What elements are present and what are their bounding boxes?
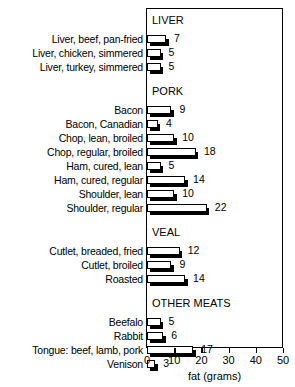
chart-row: Shoulder, lean10 (0, 188, 295, 202)
x-axis-tick (147, 348, 148, 353)
chart-row: Ham, cured, lean5 (0, 160, 295, 174)
category-label: Bacon (114, 104, 143, 117)
bar-value-label: 14 (193, 272, 205, 285)
category-label: Ham, cured, lean (66, 160, 143, 173)
section-heading: VEAL (152, 226, 180, 239)
bar (147, 35, 170, 46)
x-axis-tick-label: 50 (270, 354, 295, 367)
x-axis: fat (grams) 01020304050 (146, 348, 283, 387)
section-heading: OTHER MEATS (152, 297, 231, 310)
chart-row: Cutlet, breaded, fried12 (0, 245, 295, 259)
bar (147, 49, 165, 60)
chart-row: Rabbit6 (0, 330, 295, 344)
category-label: Bacon, Canadian (65, 118, 143, 131)
bar (147, 275, 189, 286)
bar-face (147, 148, 196, 156)
bar-face (147, 134, 174, 142)
chart-row: Liver, chicken, simmered5 (0, 47, 295, 61)
bar-value-label: 10 (182, 131, 194, 144)
bar-face (147, 106, 171, 114)
bar-face (147, 35, 166, 43)
x-axis-tick-label: 40 (243, 354, 269, 367)
bar (147, 134, 178, 145)
bar-face (147, 275, 185, 283)
bar-face (147, 190, 174, 198)
bar (147, 176, 189, 187)
bar-face (147, 261, 171, 269)
bar-value-label: 22 (215, 201, 227, 214)
bar (147, 120, 162, 131)
bar-value-label: 9 (179, 103, 185, 116)
bar-value-label: 5 (169, 46, 175, 59)
bar-value-label: 5 (169, 315, 175, 328)
category-label: Cutlet, broiled (81, 259, 143, 272)
bar-value-label: 12 (188, 244, 200, 257)
chart-row: Liver, beef, pan-fried7 (0, 33, 295, 47)
category-label: Chop, lean, broiled (59, 132, 143, 145)
x-axis-tick (256, 348, 257, 353)
bar (147, 106, 175, 117)
chart-row: Beefalo5 (0, 316, 295, 330)
bar-value-label: 6 (171, 329, 177, 342)
chart-row: Bacon9 (0, 104, 295, 118)
section-heading: PORK (152, 85, 183, 98)
bar (147, 162, 165, 173)
category-label: Ham, cured, regular (54, 174, 143, 187)
category-label: Tongue: beef, lamb, pork (32, 344, 143, 357)
bar-value-label: 7 (174, 32, 180, 45)
bar-face (147, 176, 185, 184)
bar (147, 63, 165, 74)
bar-value-label: 5 (169, 159, 175, 172)
category-label: Beefalo (109, 316, 143, 329)
bar-face (147, 162, 161, 170)
chart-row: Chop, lean, broiled10 (0, 132, 295, 146)
x-axis-tick (174, 348, 175, 353)
bar-face (147, 332, 163, 340)
x-axis-tick-label: 0 (134, 354, 160, 367)
category-label: Liver, beef, pan-fried (52, 33, 143, 46)
bar-face (147, 49, 161, 57)
category-label: Chop, regular, broiled (47, 146, 143, 159)
bar (147, 204, 211, 215)
x-axis-tick-label: 30 (216, 354, 242, 367)
bar-value-label: 10 (182, 187, 194, 200)
bar-face (147, 318, 161, 326)
category-label: Roasted (105, 273, 143, 286)
category-label: Shoulder, regular (66, 202, 143, 215)
chart-row: Bacon, Canadian4 (0, 118, 295, 132)
x-axis-title: fat (grams) (146, 370, 283, 383)
category-label: Liver, turkey, simmered (40, 61, 143, 74)
bar-value-label: 9 (179, 258, 185, 271)
category-label: Liver, chicken, simmered (32, 47, 143, 60)
x-axis-tick (201, 348, 202, 353)
bar-value-label: 14 (193, 173, 205, 186)
bar (147, 148, 200, 159)
bar-face (147, 204, 207, 212)
x-axis-tick (283, 348, 284, 353)
bar (147, 247, 184, 258)
chart-row: Roasted14 (0, 273, 295, 287)
x-axis-tick-label: 10 (161, 354, 187, 367)
chart-row: Ham, cured, regular14 (0, 174, 295, 188)
bar-value-label: 5 (169, 60, 175, 73)
chart-row: Liver, turkey, simmered5 (0, 61, 295, 75)
category-label: Cutlet, breaded, fried (49, 245, 143, 258)
x-axis-tick-label: 20 (188, 354, 214, 367)
bar-value-label: 4 (166, 117, 172, 130)
bar (147, 190, 178, 201)
bar (147, 332, 167, 343)
x-axis-tick (229, 348, 230, 353)
category-label: Rabbit (114, 330, 143, 343)
bar-face (147, 63, 161, 71)
chart-row: Cutlet, broiled9 (0, 259, 295, 273)
chart-row: Shoulder, regular22 (0, 202, 295, 216)
category-label: Shoulder, lean (79, 188, 143, 201)
section-heading: LIVER (152, 14, 184, 27)
chart-row: Chop, regular, broiled18 (0, 146, 295, 160)
fat-content-bar-chart: LIVERLiver, beef, pan-fried7Liver, chick… (0, 0, 295, 387)
bar (147, 261, 175, 272)
bar (147, 318, 165, 329)
bar-face (147, 247, 180, 255)
bar-face (147, 120, 158, 128)
bar-value-label: 18 (204, 145, 216, 158)
